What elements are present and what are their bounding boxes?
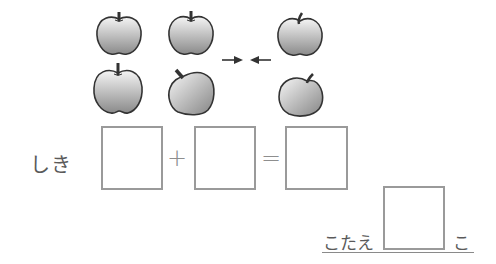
apple-icon	[166, 66, 216, 117]
apple-icon	[277, 71, 325, 118]
answer-box[interactable]	[383, 186, 445, 250]
equation-box-3[interactable]	[285, 126, 348, 190]
apple-icon	[167, 8, 215, 57]
arrow-right-icon	[222, 55, 244, 65]
apple-icon	[92, 60, 144, 115]
apple-icon	[95, 9, 143, 57]
equation-label: しき	[30, 149, 72, 178]
answer-underline	[322, 252, 474, 253]
equation-box-2[interactable]	[194, 126, 256, 190]
equals-operator: =	[261, 144, 281, 172]
apple-icon	[276, 10, 324, 58]
answer-label: こたえ	[323, 229, 374, 254]
plus-operator: +	[167, 144, 187, 172]
arrow-left-icon	[249, 55, 271, 65]
equation-box-1[interactable]	[101, 126, 163, 190]
answer-unit: こ	[453, 229, 470, 254]
